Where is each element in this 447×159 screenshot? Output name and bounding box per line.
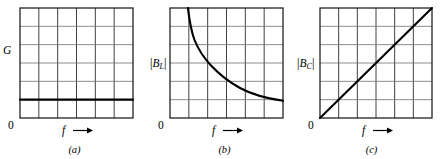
panel-c-origin-label: 0: [308, 120, 314, 132]
panel-b-x-axis-label-text: f: [212, 124, 215, 136]
panel-c-x-axis-label-text: f: [362, 124, 365, 136]
panel-c: |BC| 0 f (c): [297, 0, 446, 159]
panel-b-abs-bar-close: |: [164, 56, 167, 70]
panel-c-caption: (c): [297, 145, 446, 156]
panel-c-abs-bar-close: |: [312, 56, 315, 70]
panel-a-caption: (a): [0, 145, 149, 156]
figure-root: G 0 f (a): [0, 0, 447, 159]
panel-a-plot: [0, 0, 149, 159]
panel-c-plot: [297, 0, 447, 159]
panel-a-x-axis-label-text: f: [62, 124, 65, 136]
panel-b-plot: [150, 0, 299, 159]
panel-c-xaxis-arrow: [373, 128, 393, 134]
panel-b-xaxis-arrow: [223, 128, 243, 134]
panel-b-caption: (b): [150, 145, 299, 156]
panel-b-origin-label: 0: [158, 120, 164, 132]
panel-a-y-axis-label: G: [3, 45, 11, 57]
panel-a-x-axis-label: f: [62, 125, 65, 137]
panel-b-y-axis-label-text: B: [153, 57, 160, 69]
panel-b-curve-inverse: [188, 8, 283, 101]
panel-a-origin-label: 0: [8, 120, 14, 132]
panel-c-y-axis-label: |BC|: [297, 57, 314, 71]
panel-c-x-axis-label: f: [362, 125, 365, 137]
panel-c-y-axis-label-text: B: [300, 57, 307, 69]
panel-a: G 0 f (a): [0, 0, 149, 159]
panel-b-x-axis-label: f: [212, 125, 215, 137]
panel-a-xaxis-arrow: [73, 128, 93, 134]
panel-a-y-axis-label-text: G: [3, 44, 11, 56]
panel-b-y-axis-label: |BL|: [150, 57, 167, 71]
panel-b: |BL| 0 f (b): [150, 0, 299, 159]
